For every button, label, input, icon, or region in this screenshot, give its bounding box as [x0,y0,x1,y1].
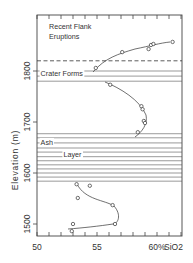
data-point [121,50,124,53]
data-point [111,203,114,206]
trend-curve-top [93,42,170,72]
data-point [171,40,174,43]
reference-lines [37,61,182,181]
plot-frame [37,15,182,236]
data-point [71,222,74,225]
y-tick-label: 1500 [22,214,32,233]
annotation-label: Ash [41,138,53,147]
data-point [143,121,146,124]
annotation-label: Crater Forms [41,69,84,78]
x-axis-ticks [37,15,181,236]
y-tick-label: 1800 [22,61,32,80]
data-point [70,229,73,232]
data-point [76,196,79,199]
y-axis-title: Elevation (m) [10,130,20,190]
y-axis-labels: 1500160017001800 [22,61,32,233]
annotation-label: Layer [63,150,82,159]
data-point [113,222,116,225]
data-point [75,183,78,186]
data-point [147,47,150,50]
data-point [136,131,139,134]
data-points [70,40,174,233]
annotation-label: Eruptions [49,32,80,41]
y-axis-ticks [33,71,37,224]
annotation-label: Recent Flank [49,22,92,31]
elevation-vs-silica-chart: Recent FlankEruptionsCrater FormsAshLaye… [0,0,193,263]
trend-curve-bottom [68,184,119,229]
annotations: Recent FlankEruptionsCrater FormsAshLaye… [40,22,92,159]
data-point [109,83,112,86]
y-tick-label: 1700 [22,112,32,131]
trend-curve-middle [105,82,146,137]
x-tick-label: 55 [92,242,102,252]
y-tick-label: 1600 [22,163,32,182]
data-point [94,66,97,69]
x-axis-unit-label: SiO2 [164,242,183,252]
data-point [141,108,144,111]
x-axis-labels: 505560% [32,242,166,252]
data-point [88,184,91,187]
x-tick-label: 50 [32,242,42,252]
data-point [152,42,155,45]
